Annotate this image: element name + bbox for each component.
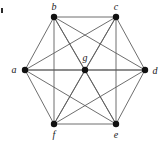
vertex-label-g: g — [83, 53, 88, 63]
graph-edge-c-g — [85, 17, 116, 70]
graph-edge-d-f — [54, 70, 145, 124]
graph-vertex-d — [142, 67, 148, 73]
vertex-label-c: c — [114, 2, 118, 12]
graph-edge-f-g — [54, 70, 85, 124]
graph-edge-b-d — [54, 17, 145, 70]
graph-edge-a-c — [25, 17, 116, 70]
graph-edge-a-e — [25, 70, 116, 124]
graph-vertex-a — [22, 67, 28, 73]
vertex-label-f: f — [53, 130, 56, 140]
vertex-label-b: b — [52, 2, 57, 12]
graph-vertex-b — [51, 14, 57, 20]
node-layer — [22, 14, 148, 127]
graph-vertex-g — [82, 67, 88, 73]
vertex-label-d: d — [153, 66, 158, 76]
vertex-label-a: a — [12, 65, 17, 75]
graph-edge-e-g — [85, 70, 116, 124]
graph-vertex-c — [113, 14, 119, 20]
graph-canvas — [0, 0, 162, 152]
graph-edge-b-g — [54, 17, 85, 70]
graph-vertex-e — [113, 121, 119, 127]
graph-figure: abcdefg — [0, 0, 162, 152]
vertex-label-e: e — [114, 130, 118, 140]
graph-vertex-f — [51, 121, 57, 127]
